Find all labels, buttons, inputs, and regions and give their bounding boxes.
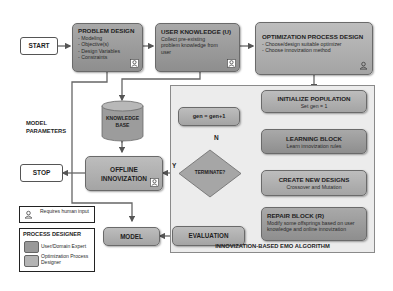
problem-design-item: - Design Variables — [78, 48, 137, 55]
start-label: START — [28, 42, 49, 49]
emo-panel-title: INNOVIZATION-BASED EMO ALGORITHM — [170, 243, 375, 251]
human-input-icon — [359, 61, 368, 70]
human-input-icon — [150, 178, 159, 187]
optimization-process-design-box: OPTIMIZATION PROCESS DESIGN - Choose/des… — [255, 22, 373, 75]
legend-optimization-designer-swatch — [24, 255, 39, 267]
repair-block-box: REPAIR BLOCK (R) Modify some offsprings … — [261, 207, 367, 241]
legend-process-designer: PROCESS DESIGNER User/Domain Expert Opti… — [19, 228, 95, 272]
create-new-designs-box: CREATE NEW DESIGNS Crossover and Mutatio… — [261, 170, 367, 196]
user-knowledge-desc: Collect pre-existing problem knowledge f… — [161, 36, 221, 56]
create-desc: Crossover and Mutation — [262, 184, 366, 191]
initialize-desc: Set gen = 1 — [262, 103, 366, 110]
optimization-process-item: - Choose/design suitable optimizer — [262, 41, 366, 48]
learning-desc: Learn innovization rules — [262, 143, 366, 150]
problem-design-item: - Constraints — [78, 54, 137, 61]
knowledge-base-label: BASE — [101, 122, 144, 129]
terminate-no-label: N — [214, 134, 219, 142]
optimization-process-item: - Choose innovization method — [262, 47, 366, 54]
model-parameters-label: MODEL PARAMETERS — [26, 119, 66, 135]
model-label: MODEL — [120, 233, 143, 240]
legend-optimization-designer-text: Optimization Process Designer — [41, 253, 91, 267]
optimization-process-design-title: OPTIMIZATION PROCESS DESIGN — [262, 33, 366, 41]
initialize-title: INITIALIZE POPULATION — [262, 95, 366, 103]
knowledge-base: KNOWLEDGE BASE — [101, 100, 144, 142]
gen-increment-label: gen = gen+1 — [193, 113, 226, 119]
human-input-icon — [24, 210, 33, 219]
create-title: CREATE NEW DESIGNS — [262, 176, 366, 184]
legend-human-input: Requires human input — [19, 206, 95, 223]
repair-desc: Modify some offsprings based on user kno… — [267, 220, 357, 233]
legend-designer-title: PROCESS DESIGNER — [23, 231, 91, 239]
terminate-yes-label: Y — [172, 162, 176, 170]
legend-user-expert-text: User/Domain Expert — [41, 243, 86, 250]
model-box: MODEL — [103, 227, 160, 246]
offline-innovization-box: OFFLINE INNOVIZATION — [85, 156, 163, 191]
offline-innovization-label: OFFLINE — [86, 166, 162, 175]
learning-title: LEARNING BLOCK — [262, 135, 366, 143]
repair-title: REPAIR BLOCK (R) — [267, 212, 361, 220]
human-input-icon — [227, 59, 236, 68]
evaluation-label: EVALUATION — [189, 232, 229, 239]
user-knowledge-title: USER KNOWLEDGE (U) — [161, 28, 234, 36]
knowledge-base-label: KNOWLEDGE — [101, 115, 144, 122]
learning-block-box: LEARNING BLOCK Learn innovization rules — [261, 129, 367, 154]
gen-increment-box: gen = gen+1 — [178, 107, 240, 126]
initialize-population-box: INITIALIZE POPULATION Set gen = 1 — [261, 90, 367, 113]
problem-design-title: PROBLEM DESIGN — [78, 27, 137, 35]
terminate-label: TERMINATE? — [178, 169, 242, 177]
problem-design-box: PROBLEM DESIGN - Modeling - Objective(s)… — [72, 23, 143, 72]
stop-label: STOP — [33, 169, 51, 176]
user-knowledge-box: USER KNOWLEDGE (U) Collect pre-existing … — [155, 23, 240, 72]
problem-design-item: - Objective(s) — [78, 41, 137, 48]
legend-user-expert-swatch — [24, 241, 39, 253]
legend-human-input-text: Requires human input — [40, 208, 92, 214]
terminate-decision: TERMINATE? — [178, 149, 242, 198]
start-node: START — [20, 37, 58, 55]
stop-node: STOP — [20, 164, 63, 182]
human-input-icon — [130, 59, 139, 68]
problem-design-item: - Modeling — [78, 35, 137, 42]
